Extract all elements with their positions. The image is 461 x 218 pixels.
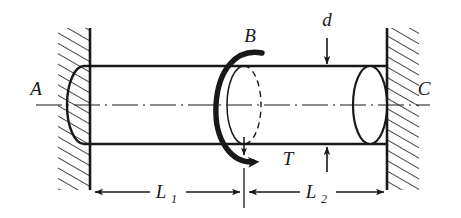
support-right-fixed	[387, 28, 419, 190]
label-l2-base: L	[305, 181, 317, 202]
torque-loop-path	[216, 52, 262, 162]
label-point-b: B	[244, 25, 256, 46]
label-l2-subscript: 2	[321, 192, 327, 206]
torsion-shaft-figure: A B C T d L 1 L 2	[0, 0, 461, 218]
label-support-c: C	[418, 78, 431, 99]
label-length-l2: L 2	[305, 181, 327, 206]
support-right-hatching	[387, 28, 419, 190]
label-l1-base: L	[155, 181, 167, 202]
torque-arrow	[216, 52, 262, 162]
label-diameter-d: d	[322, 9, 332, 30]
support-left-fixed	[58, 28, 90, 190]
label-l1-subscript: 1	[171, 192, 177, 206]
figure-canvas: A B C T d L 1 L 2	[0, 0, 461, 218]
support-left-hatching	[58, 28, 90, 190]
label-support-a: A	[28, 78, 42, 99]
label-length-l1: L 1	[155, 181, 177, 206]
label-torque-t: T	[283, 148, 295, 169]
